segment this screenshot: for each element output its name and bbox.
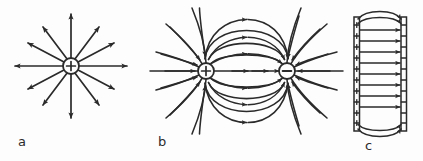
positive-plate bbox=[354, 17, 360, 131]
panel-a-label: a bbox=[18, 134, 26, 149]
panel-c-label: c bbox=[365, 138, 372, 153]
electric-field-figure: a bbox=[0, 0, 423, 161]
figure-canvas: a bbox=[0, 0, 423, 161]
negative-plate bbox=[401, 17, 407, 131]
panel-b-label: b bbox=[158, 134, 166, 149]
